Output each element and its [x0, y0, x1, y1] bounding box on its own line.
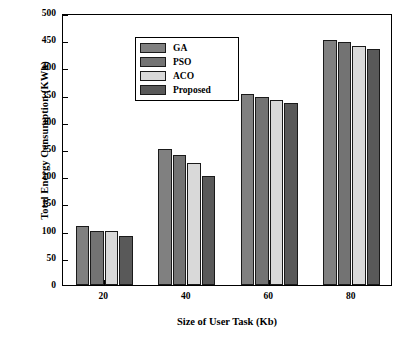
y-tick-mark: [63, 42, 68, 43]
legend-swatch-ga: [140, 43, 166, 53]
figure: Total Energy Consumption (KWh) Size of U…: [0, 0, 418, 347]
plot-area: GA PSO ACO Proposed: [62, 14, 392, 286]
x-tick-label: 20: [83, 291, 123, 301]
legend: GA PSO ACO Proposed: [135, 37, 239, 101]
y-tick-label: 300: [20, 117, 56, 127]
legend-label-proposed: Proposed: [173, 85, 211, 95]
y-tick-mark: [63, 205, 68, 206]
x-tick-label: 80: [331, 291, 371, 301]
x-tick-label: 40: [166, 291, 206, 301]
y-tick-mark: [63, 124, 68, 125]
legend-swatch-pso: [140, 57, 166, 67]
y-tick-label: 150: [20, 198, 56, 208]
bar-aco-40: [187, 163, 201, 285]
bar-aco-20: [105, 231, 119, 285]
legend-label-aco: ACO: [173, 71, 194, 81]
legend-item: ACO: [140, 69, 234, 83]
legend-item: Proposed: [140, 83, 234, 97]
x-tick-mark: [187, 280, 188, 285]
y-tick-mark: [63, 151, 68, 152]
y-tick-label: 200: [20, 171, 56, 181]
y-tick-label: 100: [20, 226, 56, 236]
x-axis-title: Size of User Task (Kb): [62, 316, 392, 327]
bar-proposed-20: [119, 236, 133, 286]
y-tick-label: 50: [20, 253, 56, 263]
y-tick-mark: [63, 260, 68, 261]
y-tick-label: 350: [20, 90, 56, 100]
bar-ga-60: [241, 94, 255, 285]
bar-aco-60: [270, 100, 284, 286]
bar-pso-80: [338, 42, 352, 285]
y-tick-mark: [63, 97, 68, 98]
bar-pso-60: [255, 97, 269, 285]
y-tick-label: 500: [20, 8, 56, 18]
y-tick-mark: [63, 69, 68, 70]
legend-swatch-aco: [140, 71, 166, 81]
bar-pso-20: [90, 231, 104, 285]
bar-ga-20: [76, 226, 90, 285]
bar-aco-80: [352, 46, 366, 285]
y-tick-mark: [63, 233, 68, 234]
y-tick-mark: [63, 178, 68, 179]
y-tick-mark: [63, 15, 68, 16]
x-tick-label: 60: [248, 291, 288, 301]
legend-item: PSO: [140, 55, 234, 69]
bar-proposed-60: [284, 103, 298, 285]
legend-item: GA: [140, 41, 234, 55]
legend-label-pso: PSO: [173, 57, 191, 67]
x-tick-mark: [352, 280, 353, 285]
x-tick-mark: [104, 280, 105, 285]
y-tick-label: 250: [20, 144, 56, 154]
legend-label-ga: GA: [173, 43, 187, 53]
y-tick-label: 0: [20, 280, 56, 290]
bar-proposed-40: [202, 176, 216, 285]
legend-swatch-proposed: [140, 85, 166, 95]
bar-ga-80: [323, 40, 337, 285]
x-tick-mark: [269, 280, 270, 285]
bar-ga-40: [158, 149, 172, 285]
y-tick-label: 400: [20, 62, 56, 72]
bar-pso-40: [173, 155, 187, 285]
y-tick-label: 450: [20, 35, 56, 45]
bar-proposed-80: [367, 49, 381, 285]
